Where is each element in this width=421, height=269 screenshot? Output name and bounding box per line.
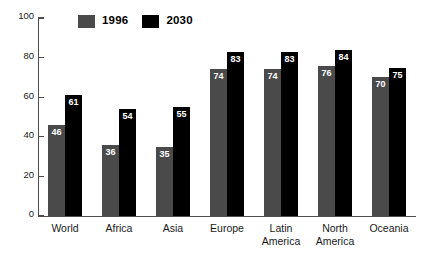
x-axis-category-label-line: Asia [146,222,200,235]
x-axis-category-label-line: America [308,235,362,248]
x-axis-category-label-line: Africa [92,222,146,235]
bar-value-label: 46 [52,128,62,137]
bar-groups: 4661365435557483748376847075 [38,18,416,216]
y-axis-tick-label: 100 [18,11,34,21]
bar-value-label: 83 [231,55,241,64]
bar: 35 [156,147,173,216]
bar: 46 [48,125,65,216]
bar: 76 [318,66,335,216]
bar-value-label: 84 [339,53,349,62]
bar: 61 [65,95,82,216]
x-axis-category-label: World [38,222,92,248]
bar-value-label: 83 [285,55,295,64]
bar-group: 7075 [362,18,416,216]
bar-value-label: 74 [268,72,278,81]
bar: 83 [227,52,244,216]
x-axis-category-label-line: North [308,222,362,235]
x-axis-category-labels: WorldAfricaAsiaEuropeLatinAmericaNorthAm… [38,222,416,248]
x-axis-category-label: Africa [92,222,146,248]
bar-group: 3654 [92,18,146,216]
bar: 55 [173,107,190,216]
bar-value-label: 75 [393,71,403,80]
bar-value-label: 74 [214,72,224,81]
bar-group: 7684 [308,18,362,216]
bar-value-label: 70 [376,80,386,89]
bar-value-label: 54 [123,112,133,121]
x-axis-category-label-line: America [254,235,308,248]
bar-value-label: 35 [160,150,170,159]
bar-group: 7483 [254,18,308,216]
bar: 36 [102,145,119,216]
y-axis-tick-label: 40 [23,130,34,140]
bar: 74 [210,69,227,216]
x-axis-category-label-line: World [38,222,92,235]
bar-group: 3555 [146,18,200,216]
x-axis-category-label: Europe [200,222,254,248]
x-axis-category-label: NorthAmerica [308,222,362,248]
bar-group: 4661 [38,18,92,216]
bar-value-label: 61 [69,98,79,107]
bar-chart: 1996 2030 020406080100 46613654355574837… [0,0,421,269]
y-axis-tick-label: 20 [23,170,34,180]
bar-group: 7483 [200,18,254,216]
y-axis-tick-label: 60 [23,91,34,101]
bar: 54 [119,109,136,216]
bar-value-label: 55 [177,110,187,119]
x-axis-category-label-line: Europe [200,222,254,235]
y-axis-tick-label: 0 [29,209,34,219]
plot-area: 020406080100 466136543555748374837684707… [38,18,416,216]
x-axis-category-label-line: Latin [254,222,308,235]
bar: 74 [264,69,281,216]
x-axis-category-label: Oceania [362,222,416,248]
x-axis-category-label: Asia [146,222,200,248]
bar: 75 [389,68,406,217]
bar: 70 [372,77,389,216]
y-axis-tick-label: 80 [23,51,34,61]
bar: 84 [335,50,352,216]
bar-value-label: 76 [322,69,332,78]
bar: 83 [281,52,298,216]
x-axis-category-label-line: Oceania [362,222,416,235]
x-axis-category-label: LatinAmerica [254,222,308,248]
bar-value-label: 36 [106,148,116,157]
